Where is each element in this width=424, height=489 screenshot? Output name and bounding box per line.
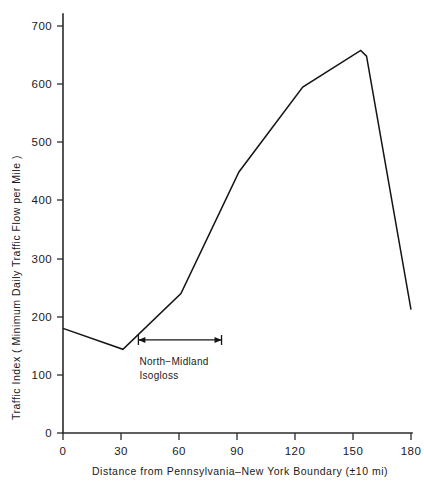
y-tick-label-300: 300 [32, 253, 52, 265]
data-series-group [63, 50, 411, 349]
y-tick-label-700: 700 [32, 20, 52, 32]
x-axis-title: Distance from Pennsylvania–New York Boun… [92, 465, 388, 477]
y-tick-label-100: 100 [32, 369, 52, 381]
y-axis-title: Traffic Index ( Minimum Daily Traffic Fl… [10, 155, 22, 420]
y-tick-label-200: 200 [32, 311, 52, 323]
isogloss-label-line1: North−Midland [139, 356, 208, 367]
x-tick-label-30: 30 [114, 445, 128, 457]
x-tick-label-0: 0 [60, 445, 67, 457]
figure-caption-fragment [4, 480, 124, 489]
isogloss-arrow-head-right [215, 337, 222, 343]
y-tick-label-500: 500 [32, 136, 52, 148]
x-tick-label-90: 90 [230, 445, 244, 457]
x-tick-label-60: 60 [172, 445, 186, 457]
x-tick-label-180: 180 [401, 445, 421, 457]
traffic-index-line-chart: 0 100 200 300 400 500 600 700 Traffic In… [0, 0, 424, 489]
isogloss-arrow-head-left [138, 337, 145, 343]
x-tick-label-120: 120 [285, 445, 305, 457]
traffic-index-series [63, 50, 411, 349]
x-tick-label-150: 150 [343, 445, 363, 457]
isogloss-annotation: North−Midland Isogloss [138, 335, 221, 381]
y-tick-label-400: 400 [32, 194, 52, 206]
y-tick-label-0: 0 [45, 427, 52, 439]
chart-figure: 0 100 200 300 400 500 600 700 Traffic In… [0, 0, 424, 489]
x-axis: 0 30 60 90 120 150 180 Distance from Pen… [60, 433, 422, 477]
y-tick-label-600: 600 [32, 78, 52, 90]
y-axis: 0 100 200 300 400 500 600 700 Traffic In… [10, 14, 63, 439]
isogloss-label-line2: Isogloss [139, 370, 178, 381]
